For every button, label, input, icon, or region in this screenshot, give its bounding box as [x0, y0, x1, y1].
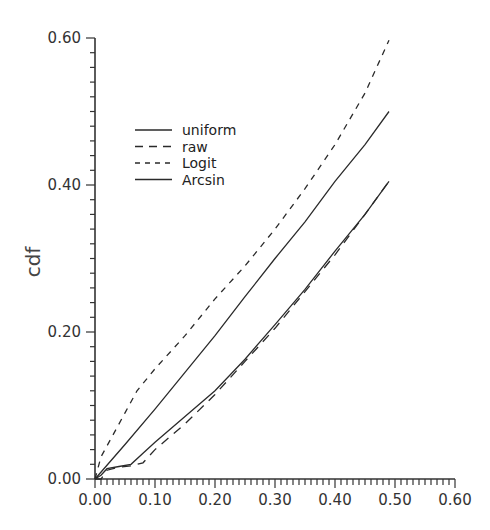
y-tick-label: 0.60 [48, 29, 81, 47]
legend-label-logit: Logit [182, 155, 217, 171]
series-line-raw [95, 181, 389, 479]
y-tick-label: 0.40 [48, 176, 81, 194]
y-axis-title: cdf [21, 246, 45, 278]
x-tick-label: 0.30 [258, 491, 291, 509]
legend-label-uniform: uniform [182, 122, 236, 138]
x-tick-label: 0.40 [318, 491, 351, 509]
y-tick-label: 0.20 [48, 323, 81, 341]
y-tick-label: 0.00 [48, 470, 81, 488]
x-tick-label: 0.00 [78, 491, 111, 509]
data-series [95, 40, 389, 479]
cdf-line-chart: 0.000.100.200.300.400.500.600.000.200.40… [0, 0, 490, 530]
axis-tick-labels: 0.000.100.200.300.400.500.600.000.200.40… [48, 29, 472, 509]
legend-label-arcsin: Arcsin [182, 172, 225, 188]
series-line-arcsin [95, 181, 389, 479]
legend: uniformrawLogitArcsin [135, 122, 236, 188]
x-tick-label: 0.20 [198, 491, 231, 509]
legend-label-raw: raw [182, 139, 208, 155]
x-tick-label: 0.10 [138, 491, 171, 509]
x-tick-label: 0.50 [378, 491, 411, 509]
series-line-uniform [95, 112, 389, 480]
x-tick-label: 0.60 [438, 491, 471, 509]
axis-ticks [86, 38, 455, 488]
series-line-logit [95, 40, 389, 479]
